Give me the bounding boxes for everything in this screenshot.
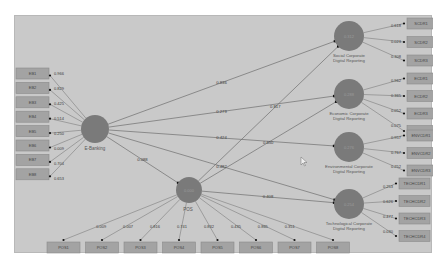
arrow-head-icon (49, 146, 51, 148)
outer-loading: 0.832 (204, 224, 215, 229)
arrow-head-icon (403, 77, 405, 79)
arrow-head-icon (293, 239, 295, 241)
path-coefficient: 0.836 (216, 80, 227, 85)
outer-loading: 0.767 (391, 150, 402, 155)
indicator-label: ENVCDR2 (411, 151, 431, 156)
indicator-label: POS1 (58, 245, 69, 250)
arrow-head-icon (403, 130, 405, 132)
arrow-head-icon (395, 217, 397, 219)
outer-loading: 0.023 (391, 39, 402, 44)
arrow-head-icon (216, 239, 218, 241)
path-coefficient: 0.408 (263, 194, 274, 199)
loading-line (201, 196, 295, 240)
outer-loading: 0.957 (391, 135, 402, 140)
arrow-head-icon (178, 239, 180, 241)
outer-loading: 0.075 (391, 123, 402, 128)
r-squared-value: 0.000 (184, 188, 195, 193)
path-diagram: 0.8360.2790.4240.4820.0880.8170.6500.408… (15, 16, 433, 254)
r-squared-value: 0.276 (344, 145, 355, 150)
outer-loading: 0.653 (54, 176, 65, 181)
outer-loading: 0.052 (391, 108, 402, 113)
indicator-label: POS6 (251, 245, 262, 250)
indicator-label: TECHCDR1 (404, 181, 427, 186)
path-coefficient: 0.279 (216, 109, 227, 114)
construct-label: Digital Reporting (333, 116, 365, 121)
outer-loading: 0.351 (285, 224, 296, 229)
construct-label: E-Banking (85, 146, 106, 151)
diagram-canvas: 0.8360.2790.4240.4820.0880.8170.6500.408… (14, 15, 432, 253)
indicator-label: SCDR1 (414, 21, 428, 26)
outer-loading: 0.007 (123, 224, 134, 229)
path-coefficient: 0.650 (263, 140, 274, 145)
indicator-label: ECDR2 (414, 94, 428, 99)
outer-loading: 0.250 (54, 131, 65, 136)
r-squared-value: 0.254 (344, 202, 355, 207)
construct-label: POS (183, 207, 193, 212)
indicator-label: EB3 (29, 100, 37, 105)
path-coefficient: 0.088 (137, 157, 148, 162)
outer-loading: 0.741 (177, 224, 188, 229)
path-coefficient: 0.817 (270, 104, 281, 109)
construct-label: Digital Reporting (333, 226, 365, 231)
arrow-head-icon (403, 169, 405, 171)
arrow-head-icon (403, 95, 405, 97)
arrow-head-icon (49, 118, 51, 120)
arrow-head-icon (49, 103, 51, 105)
outer-loading: 0.816 (150, 224, 161, 229)
r-squared-value: 0.288 (344, 92, 355, 97)
loading-line (199, 198, 256, 240)
arrow-head-icon (139, 239, 141, 241)
outer-loading: 0.704 (54, 161, 65, 166)
arrow-head-icon (395, 182, 397, 184)
indicator-label: EB7 (29, 157, 37, 162)
indicator-label: ECDR1 (414, 76, 428, 81)
outer-loading: 0.009 (96, 224, 107, 229)
arrow-head-icon (255, 239, 257, 241)
arrow-head-icon (49, 132, 51, 134)
indicator-label: EB5 (29, 129, 37, 134)
arrow-head-icon (403, 112, 405, 114)
indicator-label: EB1 (29, 71, 37, 76)
indicator-label: POS3 (135, 245, 146, 250)
arrow-head-icon (403, 134, 405, 136)
r-squared-value: 0.312 (344, 34, 355, 39)
indicator-label: EB2 (29, 85, 37, 90)
arrow-head-icon (49, 89, 51, 91)
indicator-label: SCDR2 (414, 40, 428, 45)
indicator-label: ENVCDR1 (411, 133, 431, 138)
indicator-label: EB8 (29, 172, 37, 177)
outer-loading: 0.477 (383, 214, 394, 219)
arrow-head-icon (49, 161, 51, 163)
loading-line (50, 76, 86, 119)
outer-loading: 0.308 (391, 54, 402, 59)
indicator-label: TECHCDR2 (404, 199, 427, 204)
outer-loading: 0.252 (391, 164, 402, 169)
indicator-label: POS2 (97, 245, 108, 250)
arrow-head-icon (403, 41, 405, 43)
indicator-label: ENVCDR3 (411, 168, 431, 173)
indicator-label: EB4 (29, 114, 37, 119)
arrow-head-icon (403, 59, 405, 61)
construct-label: Digital Reporting (333, 58, 365, 63)
arrow-head-icon (332, 239, 334, 241)
path-coefficient: 0.424 (216, 135, 227, 140)
outer-loading: 0.626 (383, 199, 394, 204)
loading-line (141, 199, 180, 240)
loading-line (64, 195, 177, 240)
outer-loading: 0.365 (391, 93, 402, 98)
loading-line (195, 201, 217, 240)
indicator-label: POS4 (174, 245, 185, 250)
mouse-cursor-icon (301, 157, 307, 166)
arrow-head-icon (62, 239, 64, 241)
outer-loading: 0.966 (54, 71, 65, 76)
outer-loading: 0.618 (391, 23, 402, 28)
indicator-label: SCDR3 (414, 58, 428, 63)
indicator-label: POS8 (328, 245, 339, 250)
outer-loading: 0.435 (231, 224, 242, 229)
outer-loading: 0.514 (54, 116, 65, 121)
arrow-head-icon (403, 152, 405, 154)
construct-ebanking[interactable] (81, 115, 109, 143)
arrow-head-icon (49, 74, 51, 76)
arrow-head-icon (395, 200, 397, 202)
indicator-label: POS7 (289, 245, 300, 250)
